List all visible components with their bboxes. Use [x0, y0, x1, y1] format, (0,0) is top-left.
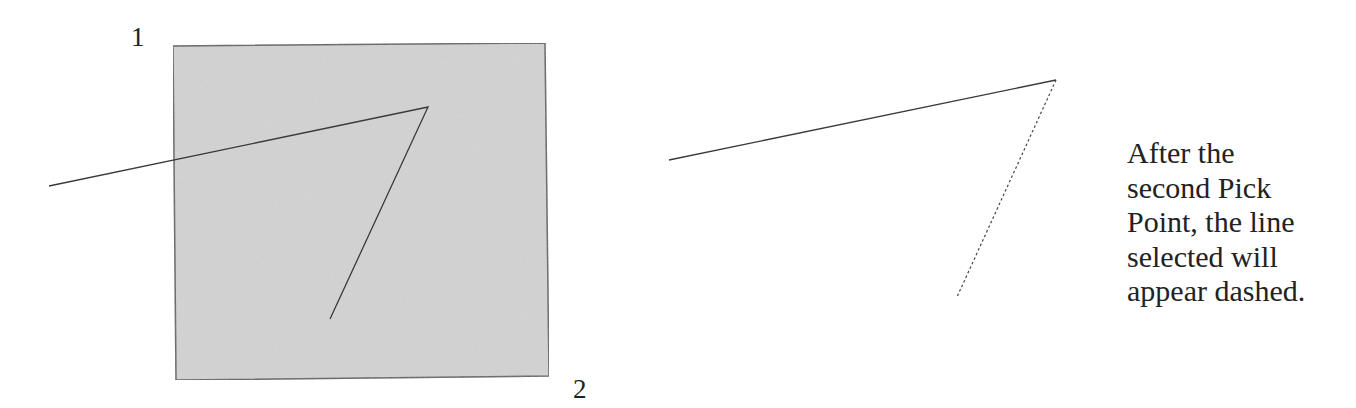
caption-line: After the: [1127, 136, 1352, 171]
pick-point-2-label: 2: [573, 374, 587, 404]
caption-line: selected will: [1127, 240, 1352, 275]
selection-window: [173, 43, 549, 380]
unselected-line-segment: [669, 80, 1056, 160]
caption-line: Point, the line: [1127, 205, 1352, 240]
caption-line: second Pick: [1127, 171, 1352, 206]
left-panel: 1 2: [49, 22, 587, 404]
selected-dashed-line-segment: [957, 80, 1056, 297]
pick-point-1-label: 1: [131, 22, 145, 52]
explanation-caption: After the second Pick Point, the line se…: [1127, 136, 1352, 309]
right-panel: [669, 80, 1056, 297]
caption-line: appear dashed.: [1127, 274, 1352, 309]
